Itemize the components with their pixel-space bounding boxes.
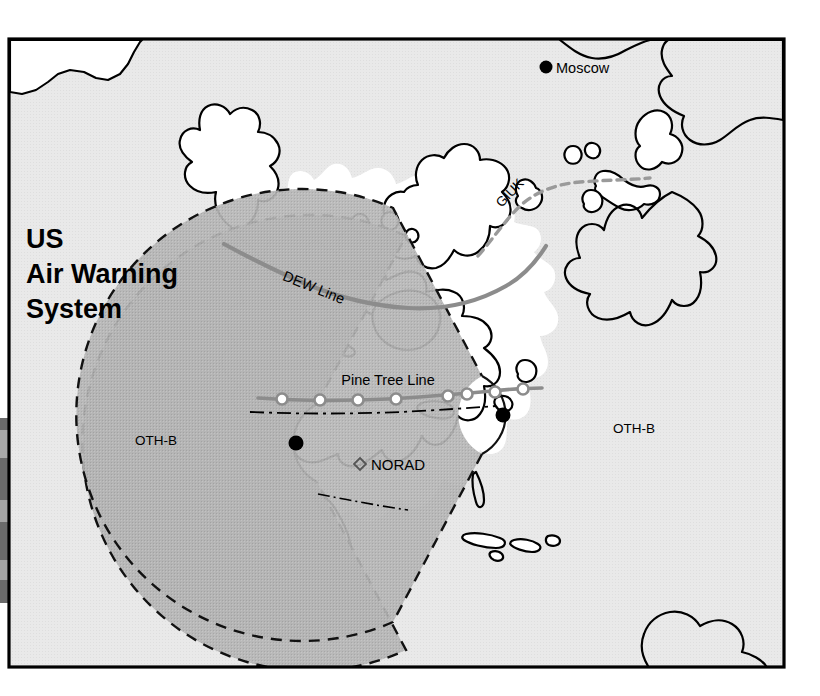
pine-tree-station <box>490 387 501 398</box>
label-norad: NORAD <box>371 456 425 473</box>
pine-tree-station <box>518 384 529 395</box>
caribbean-islet-a <box>490 551 504 561</box>
pine-tree-station <box>315 395 326 406</box>
label-moscow: Moscow <box>556 60 610 76</box>
othb-west-site-marker <box>289 436 304 451</box>
title-line-3: System <box>26 294 122 324</box>
map-canvas: US Air Warning System Moscow GIUK DEW Li… <box>0 0 820 696</box>
caribbean-islet-b <box>546 535 560 545</box>
pine-tree-station <box>462 389 473 400</box>
pine-tree-station <box>391 394 402 405</box>
title-line-1: US <box>26 224 64 254</box>
pine-tree-station <box>353 395 364 406</box>
ireland-coastline <box>582 190 602 212</box>
label-othb-east: OTH-B <box>613 421 655 436</box>
map-figure: US Air Warning System Moscow GIUK DEW Li… <box>0 0 820 696</box>
label-pine-tree-line: Pine Tree Line <box>341 372 435 388</box>
svalbard-coastline <box>564 146 581 164</box>
pine-tree-station <box>277 394 288 405</box>
othb-east-site-marker <box>496 408 511 423</box>
label-othb-west: OTH-B <box>135 433 177 448</box>
svalbard-b <box>585 143 600 158</box>
moscow-marker-dot <box>540 61 553 74</box>
title-line-2: Air Warning <box>26 259 178 289</box>
pine-tree-station <box>443 391 454 402</box>
newfoundland-coastline <box>516 360 536 382</box>
